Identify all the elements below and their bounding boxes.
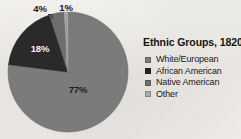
legend-label: Other <box>156 89 178 100</box>
legend-label: African American <box>156 66 222 77</box>
chart-info-panel: Ethnic Groups, 1820 White/European Afric… <box>143 36 241 100</box>
legend-swatch-icon <box>145 68 151 74</box>
slice-label-white-european: 77% <box>69 84 88 95</box>
slice-label-native-american: 4% <box>33 3 47 14</box>
legend-item-other[interactable]: Other <box>143 89 241 100</box>
slice-label-other: 1% <box>59 2 73 13</box>
legend-swatch-icon <box>145 80 151 86</box>
slice-label-african-american: 18% <box>31 43 50 54</box>
legend-label: Native American <box>156 77 219 88</box>
legend-item-white-european[interactable]: White/European <box>143 54 241 65</box>
pie-chart: 77% 18% 4% 1% <box>0 0 140 139</box>
legend-item-native-american[interactable]: Native American <box>143 77 241 88</box>
chart-title: Ethnic Groups, 1820 <box>143 36 241 48</box>
legend-item-african-american[interactable]: African American <box>143 66 241 77</box>
pie-chart-svg: 77% 18% 4% 1% <box>0 0 140 139</box>
legend-swatch-icon <box>145 57 151 63</box>
legend-swatch-icon <box>145 91 151 97</box>
legend: White/European African American Native A… <box>143 54 241 100</box>
legend-label: White/European <box>156 54 218 65</box>
